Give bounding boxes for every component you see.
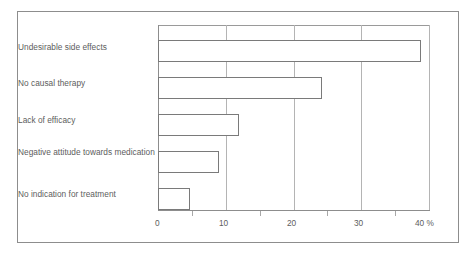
minor-tick-35 bbox=[395, 211, 396, 216]
category-label: No causal therapy bbox=[18, 78, 158, 89]
category-label: No indication for treatment bbox=[18, 189, 158, 200]
chart-figure: Undesirable side effects No causal thera… bbox=[0, 0, 476, 255]
xtick-label-0: 0 bbox=[155, 218, 160, 228]
xtick-label-20: 20 bbox=[287, 218, 296, 228]
bar-no-causal-therapy bbox=[158, 77, 322, 99]
xtick-label-40: 40 % bbox=[415, 218, 434, 228]
bar-lack-of-efficacy bbox=[158, 114, 239, 136]
bar-negative-attitude bbox=[158, 151, 219, 173]
category-label: Lack of efficacy bbox=[18, 115, 158, 126]
category-label: Undesirable side effects bbox=[18, 42, 158, 53]
minor-tick-15 bbox=[260, 211, 261, 216]
minor-tick-25 bbox=[327, 211, 328, 216]
minor-tick-5 bbox=[192, 211, 193, 216]
category-label: Negative attitude towards medication bbox=[18, 147, 158, 158]
gridline-40 bbox=[429, 25, 430, 210]
xtick-label-10: 10 bbox=[219, 218, 228, 228]
plot-area: 0 10 20 30 40 % bbox=[158, 25, 429, 210]
xtick-label-30: 30 bbox=[354, 218, 363, 228]
category-axis-labels: Undesirable side effects No causal thera… bbox=[0, 0, 158, 255]
bar-undesirable-side-effects bbox=[158, 40, 421, 62]
value-axis-baseline bbox=[158, 210, 430, 211]
bar-no-indication bbox=[158, 188, 190, 210]
